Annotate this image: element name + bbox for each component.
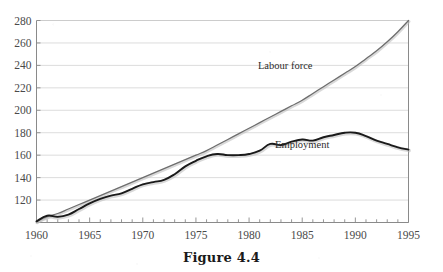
- svg-text:1975: 1975: [184, 229, 207, 241]
- svg-text:260: 260: [14, 37, 32, 49]
- svg-text:120: 120: [14, 194, 32, 206]
- svg-text:220: 220: [14, 82, 32, 94]
- figure-container: 120140160180200220240260280 196019651970…: [0, 0, 443, 272]
- svg-text:160: 160: [14, 149, 32, 161]
- annotation-employment: Employment: [275, 139, 329, 150]
- svg-text:240: 240: [14, 59, 32, 71]
- svg-text:200: 200: [14, 104, 32, 116]
- gridlines: [37, 21, 409, 201]
- axes: [37, 21, 409, 223]
- svg-text:280: 280: [14, 15, 32, 27]
- svg-text:180: 180: [14, 127, 32, 139]
- series-line-employment: [37, 132, 409, 221]
- svg-text:1970: 1970: [131, 229, 154, 241]
- svg-text:1980: 1980: [238, 229, 261, 241]
- figure-caption: Figure 4.4: [0, 250, 443, 265]
- series-line-labour-force: [37, 21, 409, 222]
- data-series: [37, 21, 410, 223]
- y-axis-tick-labels: 120140160180200220240260280: [14, 15, 32, 207]
- line-chart: 120140160180200220240260280 196019651970…: [0, 0, 443, 272]
- svg-text:1960: 1960: [25, 229, 48, 241]
- svg-text:1985: 1985: [291, 229, 314, 241]
- tick-marks: [37, 21, 409, 223]
- svg-text:1990: 1990: [344, 229, 367, 241]
- svg-text:1965: 1965: [78, 229, 101, 241]
- svg-text:140: 140: [14, 172, 32, 184]
- svg-text:1995: 1995: [397, 229, 420, 241]
- annotation-labour-force: Labour force: [258, 60, 313, 71]
- x-axis-tick-labels: 19601965197019751980198519901995: [25, 229, 420, 241]
